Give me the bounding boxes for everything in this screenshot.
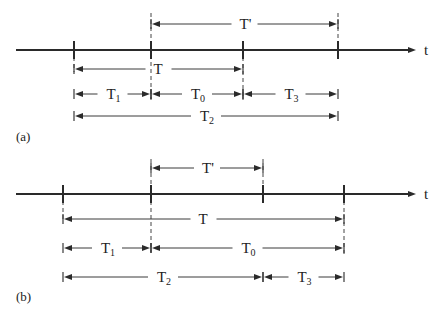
arrow-left-icon xyxy=(152,165,160,171)
interval-label: T' xyxy=(202,160,214,176)
timing-diagram: tT'TT1T0T3T2(a) tT'TT1T0T2T3(b) xyxy=(0,0,441,319)
interval-label: T xyxy=(285,86,294,102)
axis-arrow-icon xyxy=(408,191,416,197)
interval-subscript: 2 xyxy=(166,276,171,287)
arrow-right-icon xyxy=(234,91,242,97)
interval-T: T xyxy=(63,211,344,227)
arrow-left-icon xyxy=(75,91,83,97)
interval-label: T xyxy=(242,240,251,256)
arrow-right-icon xyxy=(335,245,343,251)
arrow-right-icon xyxy=(329,91,337,97)
arrow-right-icon xyxy=(335,216,343,222)
axis-label: t xyxy=(424,42,429,58)
interval-T2: T2 xyxy=(63,269,263,287)
interval-label: T xyxy=(154,61,163,77)
interval-T2: T2 xyxy=(74,108,338,126)
interval-T3: T3 xyxy=(243,86,338,104)
interval-subscript: 1 xyxy=(110,247,115,258)
interval-subscript: 1 xyxy=(116,93,121,104)
interval-T1: T1 xyxy=(74,86,151,104)
interval-Tprime: T' xyxy=(151,160,263,176)
arrow-right-icon xyxy=(329,21,337,27)
arrow-right-icon xyxy=(142,91,150,97)
axis-label: t xyxy=(424,186,429,202)
interval-label: T' xyxy=(240,16,252,32)
panel-caption: (a) xyxy=(16,129,30,144)
interval-label: T xyxy=(199,211,208,227)
arrow-left-icon xyxy=(75,113,83,119)
interval-Tprime: T' xyxy=(151,16,338,32)
interval-subscript: 3 xyxy=(307,276,312,287)
arrow-right-icon xyxy=(254,274,262,280)
arrow-right-icon xyxy=(254,165,262,171)
arrow-right-icon xyxy=(142,245,150,251)
interval-label: T xyxy=(200,108,209,124)
interval-T0: T0 xyxy=(151,86,243,104)
arrow-right-icon xyxy=(335,274,343,280)
arrow-left-icon xyxy=(64,245,72,251)
interval-T: T xyxy=(74,61,243,77)
interval-T0: T0 xyxy=(151,240,344,258)
interval-subscript: 0 xyxy=(200,93,205,104)
interval-T1: T1 xyxy=(63,240,151,258)
arrow-right-icon xyxy=(234,66,242,72)
arrow-left-icon xyxy=(244,91,252,97)
arrow-left-icon xyxy=(75,66,83,72)
interval-label: T xyxy=(101,240,110,256)
arrow-left-icon xyxy=(152,91,160,97)
interval-label: T xyxy=(191,86,200,102)
arrow-left-icon xyxy=(64,274,72,280)
interval-label: T xyxy=(157,269,166,285)
panel-caption: (b) xyxy=(16,289,31,304)
interval-label: T xyxy=(107,86,116,102)
panel-a: tT'TT1T0T3T2(a) xyxy=(16,13,429,144)
arrow-left-icon xyxy=(152,21,160,27)
interval-subscript: 3 xyxy=(294,93,299,104)
axis-arrow-icon xyxy=(408,47,416,53)
arrow-left-icon xyxy=(264,274,272,280)
interval-label: T xyxy=(298,269,307,285)
interval-T3: T3 xyxy=(263,269,344,287)
arrow-left-icon xyxy=(64,216,72,222)
arrow-left-icon xyxy=(152,245,160,251)
arrow-right-icon xyxy=(329,113,337,119)
panel-b: tT'TT1T0T2T3(b) xyxy=(16,159,429,304)
interval-subscript: 0 xyxy=(251,247,256,258)
interval-subscript: 2 xyxy=(209,115,214,126)
